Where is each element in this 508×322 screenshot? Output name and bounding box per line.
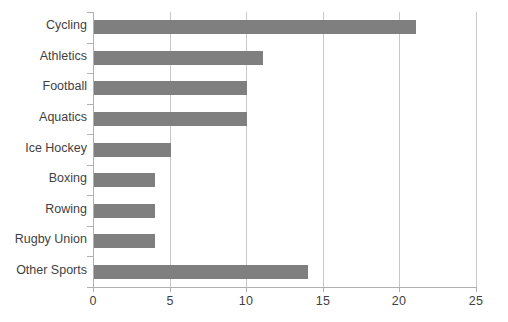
bar-rowing	[94, 204, 155, 218]
bar-aquatics	[94, 112, 247, 126]
bar-ice-hockey	[94, 143, 171, 157]
category-label-athletics: Athletics	[0, 49, 87, 63]
x-axis-line	[93, 287, 477, 288]
category-label-other-sports: Other Sports	[0, 263, 87, 277]
gridline-25	[476, 12, 477, 287]
gridline-15	[323, 12, 324, 287]
y-tick-2	[87, 73, 93, 74]
x-tick-5	[170, 287, 171, 292]
x-tick-0	[93, 287, 94, 292]
bar-cycling	[94, 20, 416, 34]
y-tick-6	[87, 195, 93, 196]
category-label-rowing: Rowing	[0, 202, 87, 216]
y-tick-5	[87, 165, 93, 166]
bar-boxing	[94, 173, 155, 187]
category-label-ice-hockey: Ice Hockey	[0, 141, 87, 155]
category-label-boxing: Boxing	[0, 171, 87, 185]
gridline-20	[399, 12, 400, 287]
x-tick-label-25: 25	[456, 294, 496, 308]
bar-football	[94, 81, 247, 95]
bar-rugby-union	[94, 234, 155, 248]
x-tick-20	[399, 287, 400, 292]
y-tick-0	[87, 12, 93, 13]
y-tick-7	[87, 226, 93, 227]
category-label-football: Football	[0, 79, 87, 93]
x-tick-15	[323, 287, 324, 292]
x-tick-label-10: 10	[226, 294, 266, 308]
x-tick-10	[246, 287, 247, 292]
y-tick-3	[87, 104, 93, 105]
category-label-rugby-union: Rugby Union	[0, 232, 87, 246]
category-label-aquatics: Aquatics	[0, 110, 87, 124]
bar-athletics	[94, 51, 263, 65]
bar-other-sports	[94, 265, 308, 279]
bar-chart: 0510152025 CyclingAthleticsFootballAquat…	[0, 0, 508, 322]
x-tick-label-0: 0	[73, 294, 113, 308]
category-label-cycling: Cycling	[0, 18, 87, 32]
x-tick-25	[476, 287, 477, 292]
x-tick-label-15: 15	[303, 294, 343, 308]
y-tick-4	[87, 134, 93, 135]
y-tick-8	[87, 256, 93, 257]
x-tick-label-20: 20	[379, 294, 419, 308]
y-tick-9	[87, 287, 93, 288]
x-tick-label-5: 5	[150, 294, 190, 308]
y-tick-1	[87, 43, 93, 44]
